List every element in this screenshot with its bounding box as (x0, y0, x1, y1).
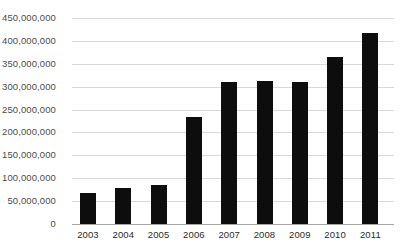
bar (80, 193, 96, 224)
y-axis-tick-label: 250,000,000 (2, 105, 56, 115)
y-axis-tick-label: 0 (51, 219, 56, 229)
y-axis-tick-label: 50,000,000 (7, 196, 56, 206)
bar (362, 33, 378, 224)
x-axis-tick-label: 2011 (350, 230, 390, 240)
x-axis-tick-label: 2003 (68, 230, 108, 240)
y-axis-tick-label: 100,000,000 (2, 173, 56, 183)
y-axis-tick-label: 400,000,000 (2, 36, 56, 46)
bar (292, 82, 308, 224)
bar (221, 82, 237, 224)
x-axis-tick-label: 2004 (103, 230, 143, 240)
bar (257, 81, 273, 224)
y-axis-tick-label: 350,000,000 (2, 59, 56, 69)
bar (186, 117, 202, 224)
bar (115, 188, 131, 224)
axis-baseline (72, 224, 394, 225)
x-axis-tick-label: 2008 (245, 230, 285, 240)
gridline (72, 41, 394, 42)
bar (327, 57, 343, 224)
gridline (72, 18, 394, 19)
x-axis-tick-label: 2005 (139, 230, 179, 240)
gridline (72, 64, 394, 65)
x-axis-tick-label: 2010 (315, 230, 355, 240)
x-axis-tick-label: 2006 (174, 230, 214, 240)
bar (151, 185, 167, 224)
plot-area: 050,000,000100,000,000150,000,000200,000… (72, 10, 394, 224)
x-axis-tick-label: 2009 (280, 230, 320, 240)
x-axis-tick-label: 2007 (209, 230, 249, 240)
y-axis-tick-label: 450,000,000 (2, 13, 56, 23)
bar-chart: 050,000,000100,000,000150,000,000200,000… (0, 0, 404, 252)
y-axis-tick-label: 150,000,000 (2, 150, 56, 160)
y-axis-tick-label: 200,000,000 (2, 127, 56, 137)
y-axis-tick-label: 300,000,000 (2, 82, 56, 92)
